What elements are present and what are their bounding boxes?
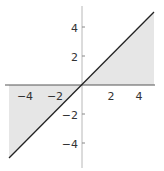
plot-area: −4 −2 2 4 4 2 −2 −4	[0, 0, 164, 171]
x-tick-label: 4	[136, 90, 143, 103]
x-tick-label: −2	[47, 90, 63, 103]
x-tick-label: 2	[108, 90, 115, 103]
y-tick-label: 4	[71, 22, 78, 35]
y-tick-label: −4	[62, 138, 78, 151]
y-tick-label: −2	[62, 109, 78, 122]
y-tick-label: 2	[71, 51, 78, 64]
x-tick-label: −4	[17, 90, 33, 103]
